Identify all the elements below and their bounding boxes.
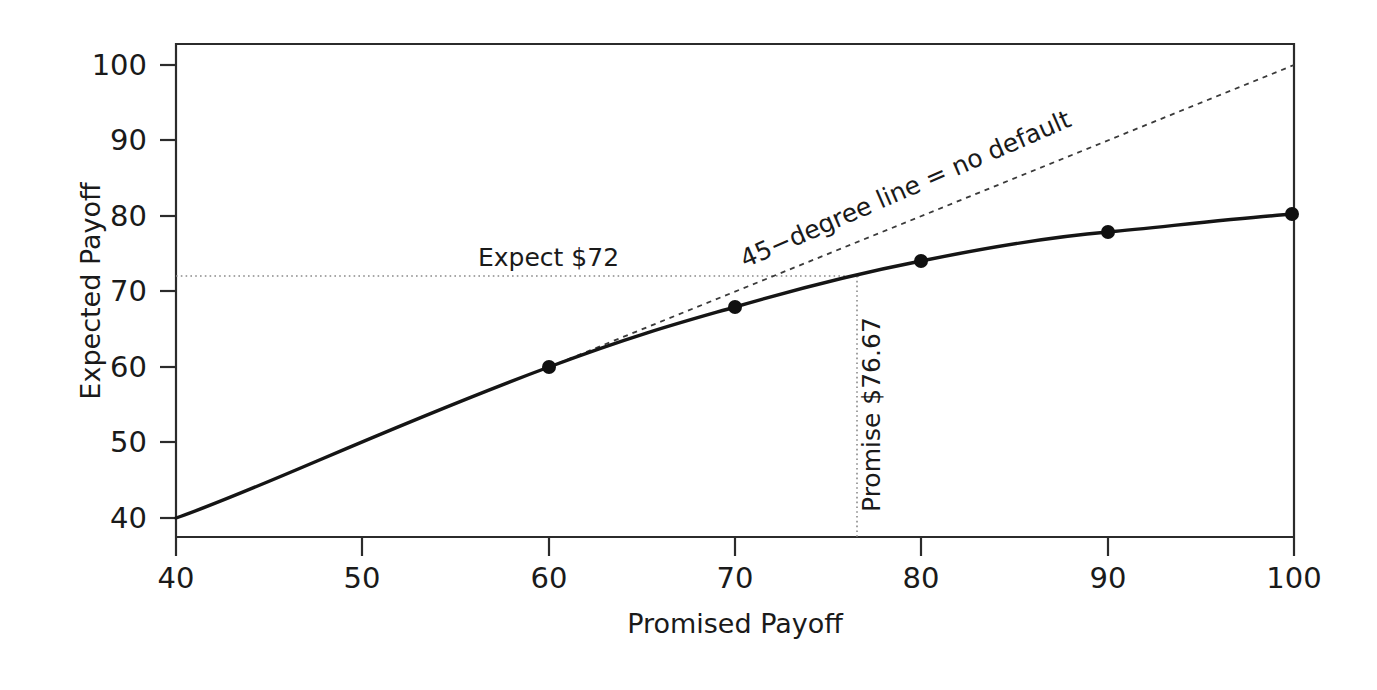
x-tick-label-40: 40 [158, 561, 195, 595]
y-axis-ticks [160, 65, 176, 518]
y-tick-label-60: 60 [110, 350, 147, 384]
frame-border [176, 44, 1294, 537]
x-tick-label-90: 90 [1090, 561, 1127, 595]
x-tick-label-50: 50 [344, 561, 381, 595]
data-point-90 [1101, 225, 1115, 239]
promise-annotation-label: Promise $76.67 [857, 317, 886, 512]
data-point-80 [914, 254, 928, 268]
forty-five-degree-line [549, 65, 1294, 367]
y-tick-label-70: 70 [110, 274, 147, 308]
reference-lines [176, 276, 860, 537]
data-point-markers [542, 207, 1299, 374]
forty-five-degree-annotation-label: 45−degree line = no default [736, 104, 1075, 273]
y-tick-label-100: 100 [92, 48, 147, 82]
x-tick-label-80: 80 [903, 561, 940, 595]
y-tick-label-40: 40 [110, 501, 147, 535]
data-point-100 [1285, 207, 1299, 221]
y-tick-label-50: 50 [110, 425, 147, 459]
data-point-60 [542, 360, 556, 374]
x-tick-label-100: 100 [1266, 561, 1321, 595]
y-tick-label-90: 90 [110, 123, 147, 157]
expected-payoff-chart: 100 90 80 70 60 50 40 40 50 60 70 80 90 … [0, 0, 1377, 690]
y-tick-label-80: 80 [110, 199, 147, 233]
plot-frame [176, 44, 1294, 537]
chart-page: 100 90 80 70 60 50 40 40 50 60 70 80 90 … [0, 0, 1377, 690]
expected-payoff-curve [176, 214, 1294, 518]
x-axis-title: Promised Payoff [627, 608, 844, 639]
x-axis-tick-labels: 40 50 60 70 80 90 100 [158, 561, 1322, 595]
x-axis-ticks [176, 537, 1294, 556]
expect-annotation-label: Expect $72 [478, 243, 619, 272]
x-tick-label-70: 70 [717, 561, 754, 595]
data-point-70 [728, 300, 742, 314]
y-axis-title: Expected Payoff [75, 181, 106, 400]
x-tick-label-60: 60 [531, 561, 568, 595]
